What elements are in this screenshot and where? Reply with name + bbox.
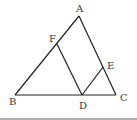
segment-de bbox=[82, 67, 103, 95]
segment-ac bbox=[79, 16, 116, 95]
label-a: A bbox=[75, 3, 84, 14]
triangle-diagram: A B C D E F bbox=[0, 0, 137, 120]
segment-ab bbox=[15, 16, 79, 95]
footer-rule bbox=[0, 118, 137, 120]
label-c: C bbox=[120, 92, 128, 103]
segment-fd bbox=[57, 44, 82, 95]
label-e: E bbox=[107, 60, 114, 71]
label-b: B bbox=[9, 96, 16, 107]
label-f: F bbox=[49, 33, 56, 44]
label-d: D bbox=[79, 100, 87, 111]
